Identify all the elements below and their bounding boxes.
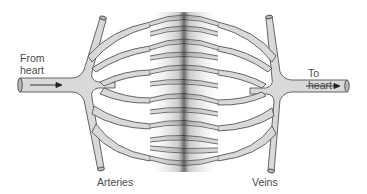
arteries-label: Arteries	[97, 176, 133, 188]
from-heart-label: From heart	[20, 52, 45, 76]
vein-tree	[218, 16, 347, 172]
to-heart-label: To heart	[308, 67, 332, 91]
veins-label: Veins	[252, 176, 278, 188]
outflow-opening	[345, 80, 349, 92]
inflow-opening	[18, 78, 22, 92]
capillary-bed-diagram	[0, 0, 367, 194]
artery-tree	[20, 18, 150, 170]
capillary-network	[150, 12, 218, 172]
